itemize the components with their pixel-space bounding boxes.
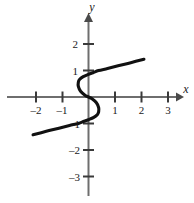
y-axis-label: y [88,0,95,14]
graph-screenshot: –2 –1 1 2 3 2 1 –1 –2 –3 x y [0,0,194,203]
y-tick-label-neg3: –3 [68,171,81,183]
x-tick-label-1: 1 [112,104,118,116]
y-tick-label-2: 2 [73,38,79,50]
cubic-relation-graph: –2 –1 1 2 3 2 1 –1 –2 –3 x y [0,0,194,203]
x-axis-label: x [182,82,189,96]
x-tick-label-neg2: –2 [30,104,42,116]
y-tick-label-neg1: –1 [68,118,80,130]
x-tick-label-2: 2 [139,104,145,116]
y-axis-arrowhead [84,13,93,22]
y-tick-label-neg2: –2 [68,144,80,156]
x-tick-label-3: 3 [165,104,171,116]
y-tick-label-1: 1 [73,65,79,77]
x-tick-label-neg1: –1 [56,104,68,116]
